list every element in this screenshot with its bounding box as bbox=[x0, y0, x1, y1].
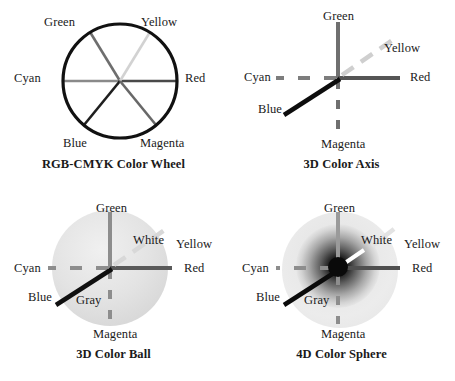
label-blue: Blue bbox=[256, 291, 280, 304]
label-yellow: Yellow bbox=[384, 42, 420, 55]
label-blue: Blue bbox=[258, 103, 282, 116]
label-yellow: Yellow bbox=[176, 238, 212, 251]
panel-caption: 3D Color Ball bbox=[0, 347, 227, 362]
label-cyan: Cyan bbox=[242, 262, 269, 275]
label-green: Green bbox=[96, 202, 127, 215]
label-white: White bbox=[133, 234, 164, 247]
label-magenta: Magenta bbox=[321, 138, 365, 151]
spoke-blue bbox=[84, 81, 120, 125]
panel-3d-color-axis: Green Yellow Cyan Red Blue Magenta 3D Co… bbox=[228, 0, 455, 190]
label-cyan: Cyan bbox=[14, 72, 41, 85]
panel-caption: RGB-CMYK Color Wheel bbox=[0, 157, 227, 172]
color-space-figure: Green Yellow Cyan Red Blue Magenta RGB-C… bbox=[0, 0, 455, 381]
label-green: Green bbox=[44, 16, 75, 29]
panel-rgb-cmyk-color-wheel: Green Yellow Cyan Red Blue Magenta RGB-C… bbox=[0, 0, 227, 190]
spoke-magenta bbox=[120, 81, 156, 125]
label-white: White bbox=[361, 234, 392, 247]
label-yellow: Yellow bbox=[404, 238, 440, 251]
color-sphere-core bbox=[328, 257, 348, 277]
label-cyan: Cyan bbox=[244, 71, 271, 84]
label-blue: Blue bbox=[28, 291, 52, 304]
label-cyan: Cyan bbox=[14, 262, 41, 275]
spoke-yellow bbox=[120, 32, 150, 81]
label-gray: Gray bbox=[304, 294, 329, 307]
label-red: Red bbox=[412, 262, 432, 275]
label-red: Red bbox=[184, 262, 204, 275]
label-red: Red bbox=[410, 71, 430, 84]
panel-caption: 4D Color Sphere bbox=[228, 347, 455, 362]
label-magenta: Magenta bbox=[93, 328, 137, 341]
label-yellow: Yellow bbox=[141, 16, 177, 29]
label-blue: Blue bbox=[63, 137, 87, 150]
label-green: Green bbox=[323, 10, 354, 23]
axis-blue bbox=[284, 79, 340, 115]
label-magenta: Magenta bbox=[140, 137, 184, 150]
panel-3d-color-ball: Green White Yellow Cyan Red Blue Gray Ma… bbox=[0, 190, 227, 380]
label-gray: Gray bbox=[76, 294, 101, 307]
spoke-green bbox=[90, 32, 120, 81]
label-green: Green bbox=[324, 202, 355, 215]
panel-caption: 3D Color Axis bbox=[228, 157, 455, 172]
panel-4d-color-sphere: Green White Yellow Cyan Red Blue Gray Ma… bbox=[228, 190, 455, 380]
label-magenta: Magenta bbox=[321, 328, 365, 341]
label-red: Red bbox=[185, 72, 205, 85]
